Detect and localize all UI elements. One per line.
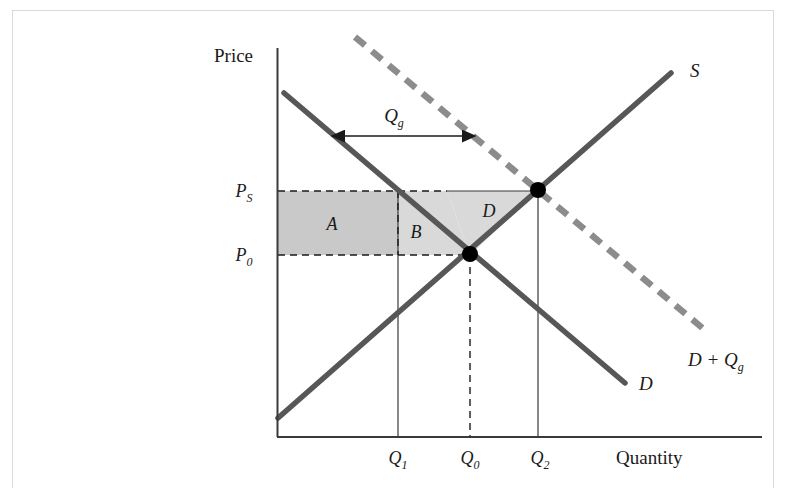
quantity-tick-q2-base: Q [531,448,544,468]
quantity-tick-q0: Q0 [461,448,480,472]
region-a-shape [278,191,398,255]
quantity-tick-q1-sub: 1 [402,458,408,472]
price-tick-ps-sub: S [247,191,253,205]
price-tick-p0: P0 [235,245,253,269]
price-tick-ps: PS [235,181,253,205]
figure-root: Price Quantity PS P0 Q1 Q0 Q2 S D D + Qg… [0,0,787,500]
new-equilibrium-point [530,182,546,198]
quantity-tick-q1-base: Q [389,448,402,468]
supply-demand-chart: Price Quantity PS P0 Q1 Q0 Q2 S D D + Qg… [0,0,787,500]
qg-gap-label: Qg [384,105,404,130]
demand-curve-label: D [638,373,653,394]
price-tick-ps-base: P [235,181,247,201]
qg-gap-label-base: Q [384,105,398,126]
supply-curve-label: S [690,60,700,81]
shifted-demand-curve [355,37,706,331]
quantity-tick-q0-sub: 0 [474,458,480,472]
quantity-tick-q0-base: Q [461,448,474,468]
shifted-demand-label-base: D + Q [687,349,738,370]
y-axis-title: Price [214,45,253,66]
original-equilibrium-point [462,246,478,262]
qg-gap-label-sub: g [398,116,404,130]
quantity-tick-q2: Q2 [531,448,550,472]
price-tick-p0-sub: 0 [247,255,253,269]
x-axis-title: Quantity [616,447,683,468]
region-label-b: B [411,222,422,242]
quantity-tick-q2-sub: 2 [544,458,550,472]
region-label-a: A [326,214,339,234]
quantity-tick-q1: Q1 [389,448,408,472]
price-tick-p0-base: P [235,245,247,265]
shifted-demand-label-sub: g [738,360,744,374]
region-label-d: D [482,201,496,221]
shifted-demand-curve-label: D + Qg [687,349,744,374]
